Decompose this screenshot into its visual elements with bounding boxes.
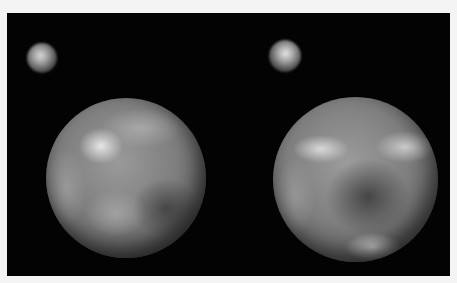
planet-left	[46, 98, 206, 258]
image-panel	[7, 13, 450, 276]
planet-right	[273, 97, 438, 262]
moon-left	[27, 43, 57, 73]
moon-right	[269, 40, 301, 72]
